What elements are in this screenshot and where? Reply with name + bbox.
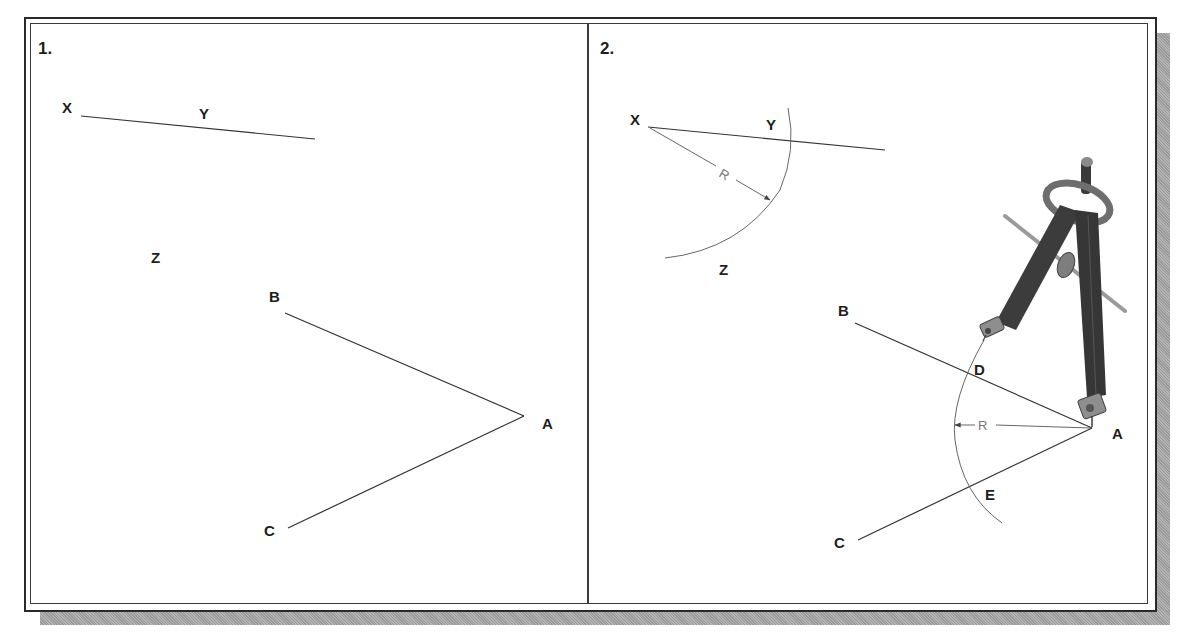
panel-2-label-x: X [630, 111, 640, 128]
panel-1-label-y: Y [199, 105, 209, 122]
compass-pencil-holder [979, 316, 1005, 338]
panel-1-line-xy [81, 116, 315, 139]
panel-2-label-c: C [834, 534, 845, 551]
panel-2-line-ca [858, 428, 1092, 540]
panel-2-label-z: Z [719, 261, 728, 278]
compass-icon [979, 157, 1125, 427]
figure-drawing: 1. X Y Z B A C 2. X Y R Z B C A D E [0, 0, 1187, 644]
panel-1-label-a: A [542, 415, 553, 432]
panel-2: 2. X Y R Z B C A D E R [600, 39, 1125, 551]
compass-wheel [1054, 250, 1078, 280]
panel-2-radius-leader-1a [650, 128, 716, 166]
panel-2-dim-r1: R [716, 166, 732, 184]
panel-2-label-e: E [985, 486, 995, 503]
panel-2-label-y: Y [766, 116, 776, 133]
panel-2-number: 2. [600, 39, 614, 58]
panel-2-radius-leader-1b [736, 180, 770, 200]
panel-2-label-a: A [1112, 425, 1123, 442]
panel-2-label-d: D [974, 361, 985, 378]
panel-1-line-ca [288, 416, 524, 528]
panel-2-radius-leader-2b [996, 425, 1090, 428]
compass-right-leg [1075, 210, 1106, 398]
panel-2-dim-r2: R [978, 418, 987, 433]
panel-1-label-c: C [264, 522, 275, 539]
panel-1-line-ba [285, 313, 524, 416]
panel-1-label-x: X [62, 99, 72, 116]
panel-1: 1. X Y Z B A C [38, 39, 553, 539]
panel-1-number: 1. [38, 39, 52, 58]
panel-2-label-b: B [838, 302, 849, 319]
panel-1-label-b: B [269, 288, 280, 305]
panel-1-label-z: Z [151, 249, 160, 266]
